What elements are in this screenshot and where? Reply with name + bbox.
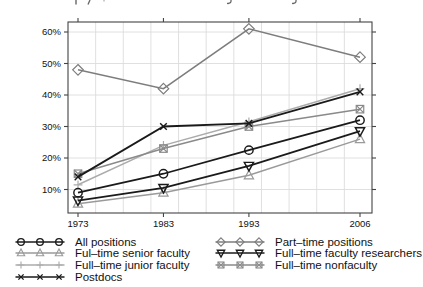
legend-key-triangle-down-icon (214, 247, 266, 259)
y-tick-label: 40% (42, 89, 62, 100)
line-chart: 197319831993200610%20%30%40%50%60% (0, 0, 423, 233)
legend-item-junior-faculty: Full–time junior faculty (14, 259, 210, 271)
x-tick-label: 2006 (349, 218, 370, 229)
legend-item-senior-faculty: Ful–time senior faculty (14, 248, 210, 260)
y-tick-label: 20% (42, 152, 62, 163)
y-tick-label: 60% (42, 26, 62, 37)
x-tick-label: 1993 (238, 218, 259, 229)
legend-label: Full–time faculty researchers (275, 247, 422, 259)
legend-label: Postdocs (75, 271, 122, 283)
legend-label: Full–time junior faculty (75, 259, 189, 271)
y-tick-label: 30% (42, 121, 62, 132)
axes (64, 18, 376, 217)
y-tick-label: 50% (42, 58, 62, 69)
legend-label: All positions (75, 236, 136, 248)
legend-key-triangle-up-icon (14, 247, 66, 259)
chart-legend: All positions Ful–time senior faculty Fu… (0, 236, 423, 282)
legend-item-part-time: Part–time positions (214, 236, 422, 248)
series-part-time-positions (73, 24, 366, 94)
legend-key-plus-icon (14, 259, 66, 271)
legend-key-circle-icon (14, 236, 66, 248)
legend-item-postdocs: Postdocs (14, 271, 210, 283)
series-ful-time-senior-faculty (73, 134, 364, 207)
legend-item-all-positions: All positions (14, 236, 210, 248)
legend-label: Ful–time senior faculty (75, 247, 190, 259)
legend-label: Full–time nonfaculty (275, 259, 377, 271)
series-all-positions (74, 116, 364, 197)
legend-item-nonfaculty: Full–time nonfaculty (214, 259, 422, 271)
legend-column-right: Part–time positions Full–time faculty re… (214, 236, 422, 282)
legend-key-x-icon (14, 271, 66, 283)
legend-key-diamond-icon (214, 236, 266, 248)
legend-key-square-x-icon (214, 259, 266, 271)
legend-column-left: All positions Ful–time senior faculty Fu… (14, 236, 210, 282)
x-tick-label: 1973 (67, 218, 88, 229)
x-tick-label: 1983 (153, 218, 174, 229)
y-tick-label: 10% (42, 184, 62, 195)
legend-item-faculty-researchers: Full–time faculty researchers (214, 248, 422, 260)
figure-page: { "chart_data": { "type": "line", "x": [… (0, 0, 423, 287)
legend-label: Part–time positions (275, 236, 373, 248)
